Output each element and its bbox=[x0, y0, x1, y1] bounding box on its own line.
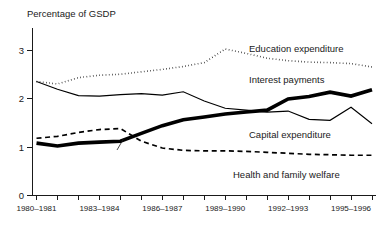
series-label-interest-payments: Interest payments bbox=[249, 74, 325, 85]
x-tick-label: 1989–1990 bbox=[205, 204, 246, 213]
x-tick-label: 1983–1984 bbox=[79, 204, 120, 213]
series-label-education-expenditure: Education expenditure bbox=[249, 43, 344, 54]
chart-background bbox=[0, 0, 385, 225]
y-tick-label: 2 bbox=[19, 93, 24, 104]
series-label-capital-expenditure: Capital expenditure bbox=[249, 129, 331, 140]
y-tick-label: 1 bbox=[19, 142, 24, 153]
x-tick-label: 1995–1996 bbox=[331, 204, 372, 213]
line-chart: Percentage of GSDP 0123 Education expend… bbox=[0, 0, 385, 225]
x-tick-label: 1980–1981 bbox=[16, 204, 57, 213]
y-tick-label: 3 bbox=[19, 45, 24, 56]
x-tick-label: 1992–1993 bbox=[268, 204, 309, 213]
chart-container: Percentage of GSDP 0123 Education expend… bbox=[0, 0, 385, 225]
series-label-health-and-family-welfare: Health and family welfare bbox=[233, 169, 340, 180]
x-tick-label: 1986–1987 bbox=[142, 204, 183, 213]
y-axis-title: Percentage of GSDP bbox=[27, 8, 116, 19]
y-tick-label: 0 bbox=[19, 190, 24, 201]
